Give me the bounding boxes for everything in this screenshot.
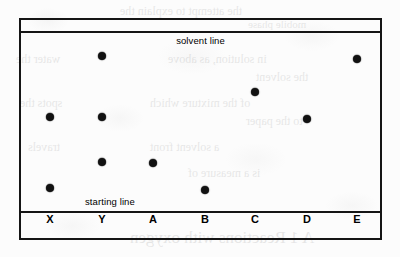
solvent-line-label: solvent line — [21, 35, 380, 46]
lane-label-a: A — [149, 214, 157, 225]
chromatogram-spot — [46, 113, 54, 121]
chromatogram-spot — [98, 113, 106, 121]
chromatogram-spot — [201, 186, 209, 194]
lane-label-d: D — [303, 214, 311, 225]
bleed-through-text: the attempt to explain the — [120, 4, 242, 19]
lane-label-y: Y — [98, 214, 105, 225]
chromatogram-spot — [98, 158, 106, 166]
chromatogram-spot — [353, 55, 361, 63]
lane-label-c: C — [251, 214, 259, 225]
chromatogram-spot — [303, 115, 311, 123]
starting-line-label: starting line — [85, 196, 135, 207]
solvent-line — [21, 31, 380, 33]
chromatogram-spot — [251, 88, 259, 96]
chromatogram-spot — [46, 184, 54, 192]
lane-label-x: X — [46, 214, 53, 225]
lane-label-b: B — [201, 214, 209, 225]
chromatography-plate: solvent line starting line XYABCDE — [19, 18, 382, 240]
chromatogram-spot — [98, 52, 106, 60]
lane-label-e: E — [353, 214, 360, 225]
chromatogram-spot — [149, 159, 157, 167]
